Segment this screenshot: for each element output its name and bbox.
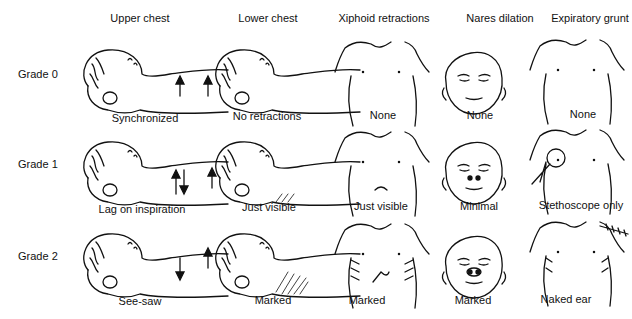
caption-upper-chest-grade-0: Synchronized [80,112,210,124]
row-label-grade-2: Grade 2 [18,250,58,262]
ear-icon [600,224,628,236]
arrow-down-icon [176,258,184,280]
caption-grunt-grade-2: Naked ear [501,293,631,305]
arrow-up-icon [176,76,184,96]
row-label-grade-0: Grade 0 [18,68,58,80]
face-nares-grade-0 [440,42,510,114]
column-header-expiratory-grunt: Expiratory grunt [525,12,632,24]
caption-upper-chest-grade-2: See-saw [75,295,205,307]
row-label-grade-1: Grade 1 [18,158,58,170]
arrow-down-icon [180,170,188,194]
caption-grunt-grade-0: None [518,108,632,120]
face-nares-grade-2 [440,226,510,298]
arrow-up-icon [172,170,180,194]
column-header-upper-chest: Upper chest [80,12,200,24]
face-nares-grade-1 [440,132,510,204]
caption-upper-chest-grade-1: Lag on inspiration [77,203,207,215]
stethoscope-icon [532,149,565,184]
column-header-xiphoid-retractions: Xiphoid retractions [319,12,449,24]
column-header-lower-chest: Lower chest [208,12,328,24]
caption-grunt-grade-1: Stethoscope only [516,199,632,211]
caption-lower-chest-grade-0: No retractions [202,110,332,122]
caption-lower-chest-grade-1: Just visible [204,201,334,213]
